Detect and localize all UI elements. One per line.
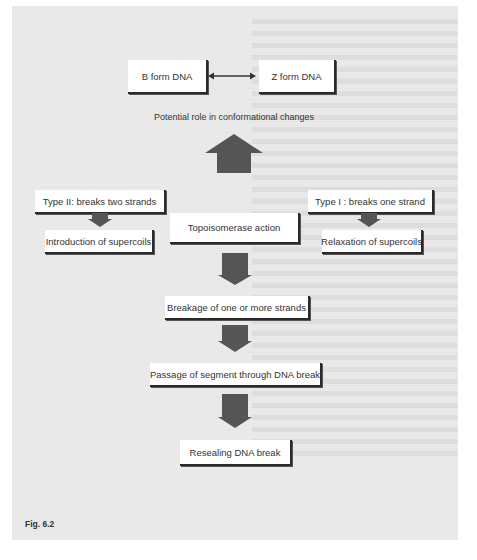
type-i-label: Type I : breaks one strand <box>315 196 425 207</box>
introduction-of-supercoils-label: Introduction of supercoils <box>46 236 152 247</box>
up-arrow-icon <box>205 134 263 174</box>
step-breakage-label: Breakage of one or more strands <box>167 302 306 313</box>
topoisomerase-action-box: Topoisomerase action <box>170 213 300 244</box>
down-arrow-small-left-icon <box>88 213 112 227</box>
step-passage-box: Passage of segment through DNA break <box>150 363 322 387</box>
z-form-dna-label: Z form DNA <box>271 71 321 82</box>
z-form-dna-box: Z form DNA <box>259 60 336 94</box>
topoisomerase-action-label: Topoisomerase action <box>188 222 280 233</box>
type-ii-box: Type II: breaks two strands <box>35 190 166 214</box>
introduction-of-supercoils-box: Introduction of supercoils <box>45 230 154 254</box>
down-arrow-small-right-icon <box>357 213 381 227</box>
double-arrow-icon <box>208 71 256 81</box>
relaxation-of-supercoils-label: Relaxation of supercoils <box>321 236 422 247</box>
step-resealing-label: Resealing DNA break <box>190 447 281 458</box>
step-breakage-box: Breakage of one or more strands <box>165 296 310 320</box>
type-ii-label: Type II: breaks two strands <box>43 196 157 207</box>
relaxation-of-supercoils-box: Relaxation of supercoils <box>322 230 423 254</box>
step-passage-label: Passage of segment through DNA break <box>150 369 320 380</box>
down-arrow-1-icon <box>218 253 252 286</box>
type-i-box: Type I : breaks one strand <box>308 190 434 214</box>
conformational-caption: Potential role in conformational changes <box>154 112 314 122</box>
b-form-dna-label: B form DNA <box>142 71 193 82</box>
down-arrow-3-icon <box>218 394 252 429</box>
step-resealing-box: Resealing DNA break <box>180 440 292 466</box>
figure-label: Fig. 6.2 <box>25 519 54 529</box>
b-form-dna-box: B form DNA <box>128 60 208 94</box>
down-arrow-2-icon <box>218 325 252 353</box>
